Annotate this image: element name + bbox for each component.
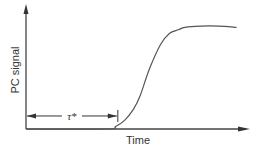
tau-arrowhead-left — [27, 113, 36, 118]
tau-arrowhead-right — [108, 113, 117, 118]
lag-time-diagram: PC signal Time τ* — [0, 0, 261, 150]
x-axis-arrowhead — [238, 127, 250, 132]
y-axis-arrowhead — [24, 4, 29, 14]
y-axis-label: PC signal — [9, 46, 21, 93]
tau-label: τ* — [67, 110, 77, 122]
x-axis-label: Time — [126, 134, 150, 146]
signal-curve — [26, 26, 237, 129]
tau-interval-annotation: τ* — [27, 110, 118, 122]
